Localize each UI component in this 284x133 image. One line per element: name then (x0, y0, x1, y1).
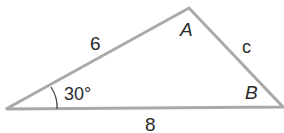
side-label-right: c (242, 37, 251, 57)
side-label-bottom: 8 (145, 114, 156, 133)
side-label-left: 6 (90, 33, 101, 54)
angle-label: 30° (64, 84, 91, 104)
vertex-label-a: A (179, 19, 193, 40)
triangle (6, 8, 283, 109)
triangle-diagram: 30° 6 c 8 A B (0, 0, 284, 133)
vertex-label-b: B (245, 82, 258, 103)
angle-arc (51, 87, 57, 109)
